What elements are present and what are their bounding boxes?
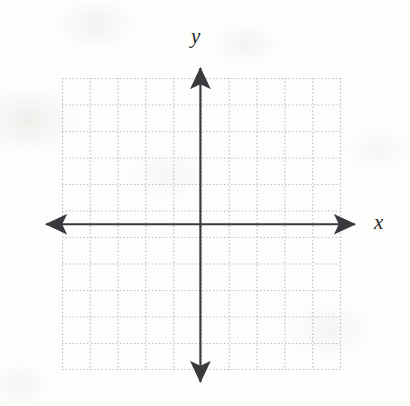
x-axis-label: x: [374, 210, 383, 235]
y-axis-label: y: [191, 24, 200, 49]
coordinate-plane: [0, 0, 410, 406]
figure-canvas: y x: [0, 0, 410, 406]
